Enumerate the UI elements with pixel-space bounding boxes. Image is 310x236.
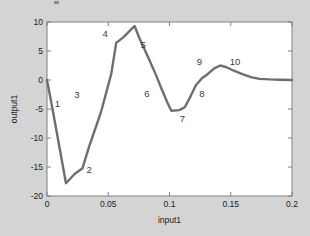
- y-tick-label: -5: [35, 104, 43, 114]
- point-label-6: 6: [144, 88, 149, 99]
- y-tick-label: 0: [38, 75, 43, 85]
- y-tick-label: 10: [34, 17, 44, 27]
- x-tick-label: 0.2: [286, 199, 298, 209]
- point-label-4: 4: [103, 28, 108, 39]
- y-tick-label: -10: [31, 133, 44, 143]
- figure-container: 00.050.10.150.2 -20-15-10-50510 12345678…: [0, 0, 310, 236]
- y-tick-label: 5: [38, 46, 43, 56]
- y-tick-label: -20: [31, 191, 44, 201]
- point-label-9: 9: [197, 56, 202, 67]
- point-label-7: 7: [180, 113, 185, 124]
- point-label-1: 1: [55, 98, 60, 109]
- point-label-5: 5: [141, 39, 146, 50]
- y-axis-tick-labels: -20-15-10-50510: [31, 17, 44, 201]
- x-tick-label: 0: [45, 199, 50, 209]
- x-tick-label: 0.05: [100, 199, 117, 209]
- y-tick-label: -15: [31, 162, 44, 172]
- point-label-3: 3: [74, 89, 79, 100]
- point-label-10: 10: [230, 56, 241, 67]
- x-tick-label: 0.15: [222, 199, 239, 209]
- y-axis-title: output1: [9, 95, 19, 124]
- x-tick-label: 0.1: [164, 199, 176, 209]
- line-chart: 00.050.10.150.2 -20-15-10-50510 12345678…: [0, 0, 310, 236]
- point-label-8: 8: [199, 88, 204, 99]
- x-axis-title: input1: [158, 215, 181, 225]
- x-axis-tick-labels: 00.050.10.150.2: [45, 199, 299, 209]
- point-label-2: 2: [87, 164, 92, 175]
